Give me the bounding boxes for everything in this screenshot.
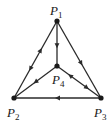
node-label-p3: P3 (93, 105, 107, 122)
node-label-p4: P4 (51, 72, 65, 89)
directed-graph-diagram: P1P2P3P4 (0, 0, 112, 126)
node-p3 (98, 95, 103, 100)
node-label-p2: P2 (6, 105, 19, 122)
node-label-p1: P1 (49, 3, 62, 20)
edge-p1-p2 (14, 21, 57, 98)
arrowhead-icon (55, 43, 60, 48)
node-p4 (54, 63, 59, 68)
node-p2 (11, 95, 16, 100)
arrowhead-icon (55, 96, 60, 101)
